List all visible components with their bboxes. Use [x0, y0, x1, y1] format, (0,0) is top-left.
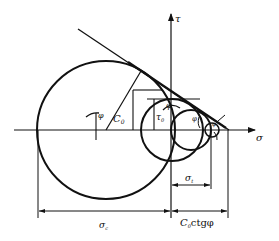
sigma-t-label: σt: [185, 173, 194, 184]
mohr-diagram: τ σ φ C0 τ0 φ φ φ σt σc C0ctgφ: [0, 0, 279, 241]
phi-main-label: φ: [98, 111, 104, 120]
sigma-axis-label: σ: [256, 132, 264, 143]
c0-label: C0: [113, 113, 125, 125]
phi-mid-arc: [198, 117, 200, 128]
sigma-c-label: σc: [99, 220, 108, 231]
phi-small-arrow: [218, 115, 225, 121]
tau0-label: τ0: [156, 112, 165, 123]
phi-top-label: φ: [166, 101, 172, 110]
phi-mid-label: φ: [192, 115, 197, 123]
c0-ctg-phi-label: C0ctgφ: [180, 217, 214, 229]
tau-axis-label: τ: [175, 13, 181, 24]
